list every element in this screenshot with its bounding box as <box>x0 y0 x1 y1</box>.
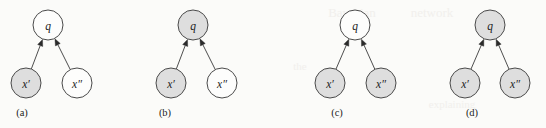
node-label-d-parent-q: q <box>487 20 493 33</box>
figure-graphical-models-panel-set: Bayesiannetworktheexplainingqx′x″(a)qx′x… <box>0 0 546 128</box>
arrowhead-b-child2 <box>200 39 205 46</box>
panel-caption-b: (b) <box>159 107 172 119</box>
node-label-a-parent-q: q <box>45 20 51 33</box>
panel-c: qx′x″(c) <box>315 10 396 119</box>
edge-a-child2-to-parent <box>58 45 70 70</box>
arrowhead-b-child1 <box>183 39 188 46</box>
node-label-b-child2: x″ <box>216 78 227 90</box>
edge-b-child2-to-parent <box>203 45 215 70</box>
node-label-b-child1: x′ <box>166 78 175 90</box>
node-label-c-child1: x′ <box>325 78 334 90</box>
edge-d-child1-to-parent <box>471 45 481 69</box>
edge-c-child2-to-parent <box>364 45 375 69</box>
panel-a: qx′x″(a) <box>11 10 92 119</box>
panel-caption-d: (d) <box>466 107 479 119</box>
node-label-d-child2: x″ <box>509 78 520 90</box>
background-bleed-text: the <box>293 60 307 72</box>
node-label-d-child1: x′ <box>460 78 469 90</box>
node-label-c-parent-q: q <box>352 20 358 33</box>
node-label-a-child2: x″ <box>71 78 82 90</box>
panel-caption-a: (a) <box>16 107 28 119</box>
node-label-b-parent-q: q <box>190 20 196 33</box>
arrowhead-a-child1 <box>38 39 43 46</box>
figure-canvas: Bayesiannetworktheexplainingqx′x″(a)qx′x… <box>0 0 546 128</box>
panel-caption-c: (c) <box>331 107 343 119</box>
node-label-a-child1: x′ <box>21 78 30 90</box>
node-label-c-child2: x″ <box>375 78 386 90</box>
arrowhead-c-child1 <box>344 39 349 46</box>
panel-b: qx′x″(b) <box>156 10 237 119</box>
edge-c-child1-to-parent <box>336 45 346 69</box>
edge-b-child1-to-parent <box>176 46 185 69</box>
arrowhead-d-child1 <box>479 39 484 46</box>
edge-a-child1-to-parent <box>31 46 40 69</box>
arrowhead-d-child2 <box>496 39 501 46</box>
arrowhead-a-child2 <box>55 39 60 46</box>
background-bleed-text: network <box>411 5 454 20</box>
edge-d-child2-to-parent <box>499 45 509 69</box>
arrowhead-c-child2 <box>361 39 366 46</box>
